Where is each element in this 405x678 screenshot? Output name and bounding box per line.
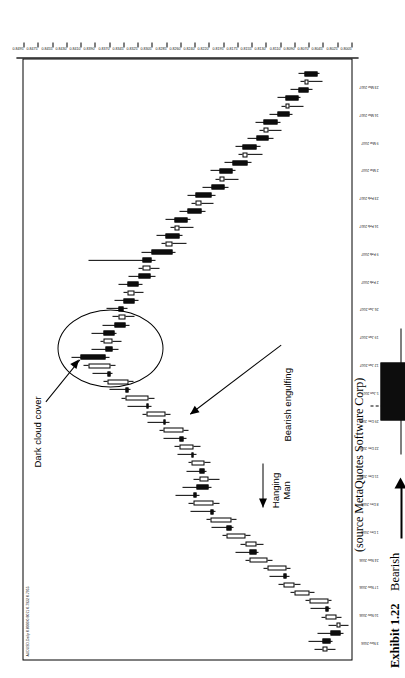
price-axis-label: 0.8220 [197,46,208,50]
price-axis-label: 0.8195 [212,46,223,50]
candlestick [147,419,169,424]
candlestick [235,549,258,554]
candle-body-up [193,500,212,505]
candlestick [290,87,312,92]
candlestick [138,265,159,270]
price-axis-label: 0.8285 [155,46,166,50]
source-caption: (source MetaQuotes Software Corp) [352,378,367,552]
candle-body-down [195,192,212,197]
price-tick [37,42,38,47]
candle-body-up [226,533,245,538]
candle-body-down [211,184,224,189]
candle-body-down [298,87,308,92]
candle-body-up [219,176,224,181]
candle-body-down [151,249,172,254]
candlestick [170,225,193,230]
candle-body-up [285,103,289,108]
candle-body-up [165,241,171,246]
candle-body-down [123,298,135,303]
candle-body-down [285,95,298,100]
candle-body-down [219,168,232,173]
bearish-engulfing-leader [189,344,281,414]
candle-body-up [304,79,308,84]
exhibit-title: Bearish [388,553,402,591]
candle-body-down [179,436,183,441]
candlestick [121,395,153,400]
candlestick [159,427,189,432]
candle-body-up [245,541,257,546]
candle-body-up [322,646,327,651]
candle-body-up [142,265,150,270]
figure-rotated-container: AUDUSD,Daily 0.8000 0.8071 0.7932 0.7955… [0,0,405,678]
candlestick [321,614,342,619]
candle-body-up [283,582,293,587]
price-axis-label: 0.8345 [112,46,123,50]
price-axis-label: 0.8130 [254,46,265,50]
price-axis-label: 0.8430 [55,46,66,50]
hanging-man-leader-arrowhead [259,498,267,507]
candlestick [128,273,155,278]
candle-body-up [195,200,201,205]
candlestick [222,533,250,538]
candlestick [298,71,320,76]
candlestick [215,176,238,181]
price-axis-label: 0.8410 [69,46,80,50]
price-axis-label: 0.8370 [98,46,109,50]
price-axis-label: 0.8025 [326,46,337,50]
candlestick [269,573,288,578]
candlestick [278,582,300,587]
candlestick [317,630,343,635]
candlestick [127,403,151,408]
candle-body-down [325,606,329,611]
candlestick [310,606,329,611]
candle-body-up [210,517,231,522]
candlestick [255,119,279,124]
candle-body-down [256,135,268,140]
dark-cloud-cover-ellipse [57,309,163,387]
price-tick [94,42,95,47]
candlestick [238,152,261,157]
price-axis-label: 0.8475 [26,46,37,50]
bearish-engulfing-label: Bearish engulfing [281,368,292,441]
price-axis-label: 0.8155 [240,46,251,50]
candle-body-up [249,557,267,562]
candle-body-up [267,565,286,570]
candlestick [186,468,207,473]
candlestick [175,492,198,497]
candlestick [142,411,170,416]
candle-body-down [330,630,340,635]
candle-wick [106,308,127,309]
candlestick [281,103,303,108]
candlestick [114,298,138,303]
candlestick [240,541,263,546]
candle-body-down [125,387,128,392]
candlestick [300,79,322,84]
candle-wick [259,129,281,130]
candlestick [188,500,219,505]
candle-body-up [174,225,179,230]
candle-body-down [191,452,194,457]
candlestick [156,233,182,238]
candlestick [290,590,314,595]
candlestick [210,168,234,173]
price-axis-label: 0.8070 [297,46,308,50]
candle-body-down [242,144,256,149]
hanging-man-label: Hanging Man [269,467,291,513]
candlestick [188,460,210,465]
candle-body-up [309,598,328,603]
candle-body-down [127,281,139,286]
candle-wick [191,202,213,203]
candle-body-down [283,573,286,578]
candle-wick [147,421,169,422]
candlestick [224,160,251,165]
candle-body-up [199,476,208,481]
exhibit-caption: Exhibit 1.22 Bearish [388,553,403,668]
candle-body-up [336,622,340,627]
candlestick [191,200,213,205]
candlestick [235,144,261,149]
price-axis: 0.84950.84750.84550.84300.84100.83900.83… [16,42,358,58]
candlestick [206,517,236,522]
candlestick [174,444,200,449]
candle-body-down [165,233,179,238]
candlestick [202,184,228,189]
